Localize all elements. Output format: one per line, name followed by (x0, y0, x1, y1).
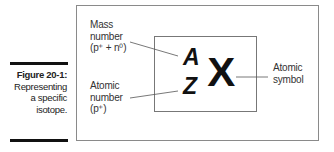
leader-lines (0, 0, 334, 152)
atomic-leader-line (130, 91, 178, 98)
mass-leader-line (130, 42, 178, 56)
